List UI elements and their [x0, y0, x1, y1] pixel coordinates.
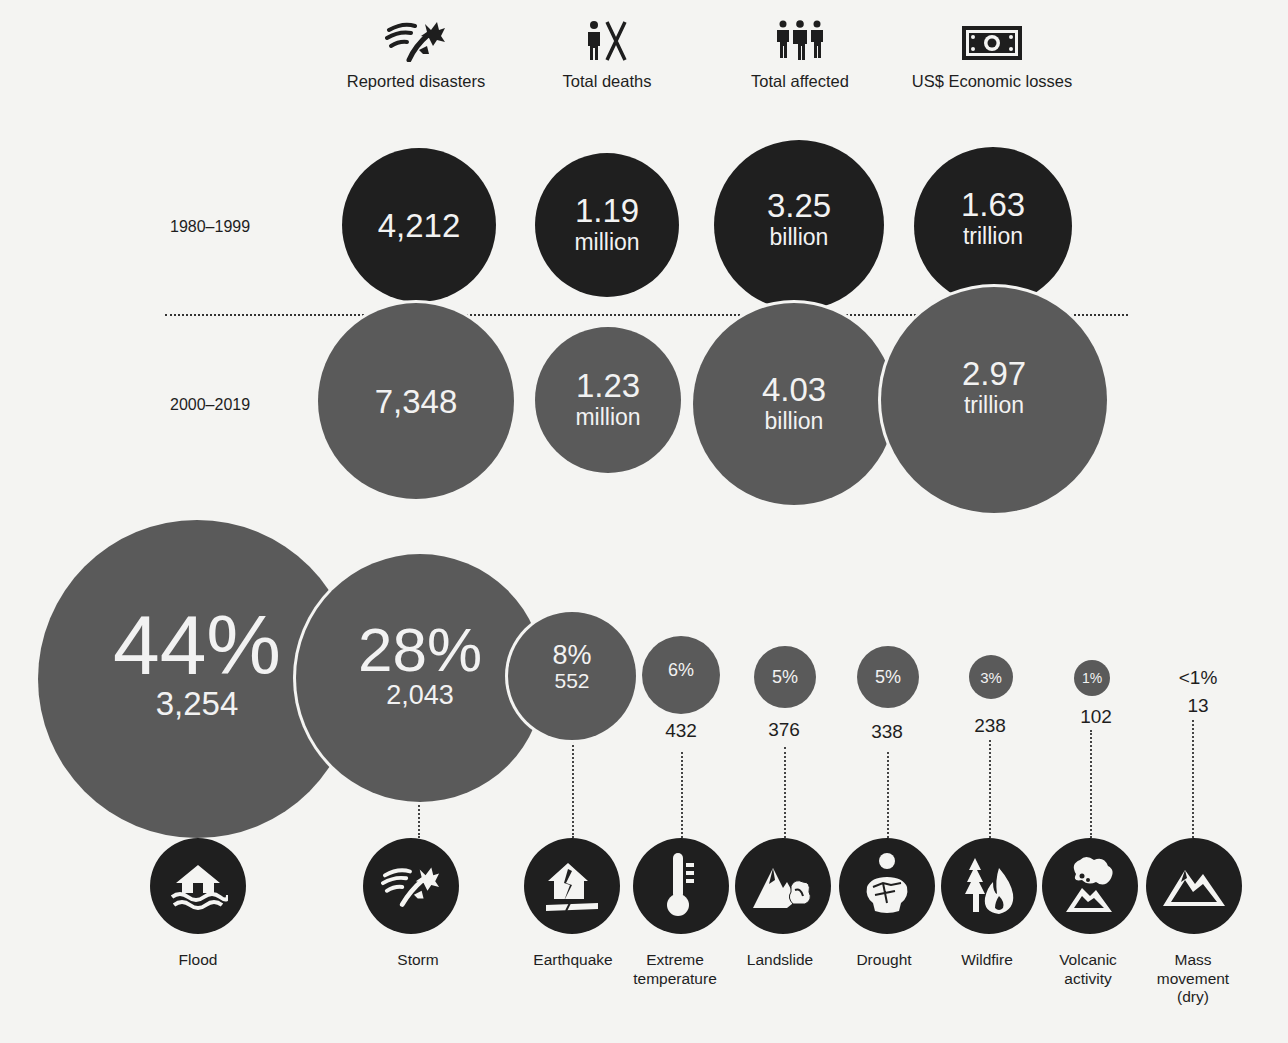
mass-movement-icon	[1146, 838, 1242, 934]
label-line: temperature	[615, 970, 735, 989]
label-line: movement	[1133, 970, 1253, 989]
landslide-icon	[735, 838, 831, 934]
label-line: Mass	[1133, 951, 1253, 970]
unit: billion	[765, 408, 824, 434]
connector-earthquake	[572, 730, 574, 838]
count-mass-movement: 13	[1168, 695, 1228, 717]
connector-drought	[887, 752, 889, 838]
earthquake-icon	[524, 838, 620, 934]
pct: 1%	[1082, 670, 1102, 686]
pct: 44%	[113, 606, 281, 686]
bubble-extreme-temp: 6%	[642, 636, 720, 714]
count: 552	[554, 669, 589, 693]
bubble-1980-affected: 3.25 billion	[714, 140, 884, 310]
value: 4,212	[378, 209, 461, 242]
type-label-extreme-temp: Extreme temperature	[615, 951, 735, 988]
pct: 5%	[772, 667, 798, 688]
header-total-deaths: Total deaths	[507, 0, 707, 91]
wildfire-icon	[941, 838, 1037, 934]
flood-icon	[150, 838, 246, 934]
bubble-storm: 28% 2,043	[296, 554, 544, 802]
thermometer-icon	[633, 838, 729, 934]
connector-extreme-temp	[681, 752, 683, 838]
period-label-2000-2019: 2000–2019	[170, 396, 250, 414]
label-line: activity	[1028, 970, 1148, 989]
label-line: Volcanic	[1028, 951, 1148, 970]
type-label-volcanic: Volcanic activity	[1028, 951, 1148, 988]
type-label-mass-movement: Mass movement (dry)	[1133, 951, 1253, 1007]
connector-wildfire	[989, 740, 991, 838]
bubble-drought: 5%	[857, 646, 919, 708]
value: 2.97	[962, 357, 1026, 390]
banknote-icon	[892, 22, 1092, 62]
pct: 28%	[358, 621, 482, 680]
count-extreme-temp: 432	[651, 720, 711, 742]
count-drought: 338	[857, 721, 917, 743]
type-label-flood: Flood	[138, 951, 258, 970]
type-label-drought: Drought	[824, 951, 944, 970]
header-total-affected: Total affected	[700, 0, 900, 91]
connector-landslide	[784, 747, 786, 838]
unit: trillion	[963, 223, 1023, 249]
value: 4.03	[762, 373, 826, 406]
count-volcanic: 102	[1066, 706, 1126, 728]
people-group-icon	[700, 22, 900, 62]
connector-volcanic	[1090, 730, 1092, 838]
count: 2,043	[386, 680, 454, 711]
bubble-wildfire: 3%	[969, 655, 1013, 699]
pct: 6%	[668, 660, 694, 681]
header-label: Total deaths	[507, 72, 707, 91]
value: 1.19	[575, 194, 639, 227]
connector-mass-movement	[1192, 720, 1194, 838]
header-label: Total affected	[700, 72, 900, 91]
header-reported-disasters: Reported disasters	[316, 0, 516, 91]
storm-icon	[363, 838, 459, 934]
label-line: Extreme	[615, 951, 735, 970]
pct-mass-movement: <1%	[1168, 667, 1228, 689]
unit: million	[574, 229, 639, 255]
bubble-1980-reported: 4,212	[342, 148, 496, 302]
unit: billion	[770, 224, 829, 250]
unit: trillion	[964, 392, 1024, 418]
bubble-volcanic: 1%	[1074, 660, 1110, 696]
pct: 3%	[980, 669, 1002, 686]
count: 3,254	[156, 686, 239, 722]
volcano-icon	[1042, 838, 1138, 934]
person-death-icon	[507, 22, 707, 62]
label-line: (dry)	[1133, 988, 1253, 1007]
bubble-2000-losses: 2.97 trillion	[881, 287, 1107, 513]
header-label: US$ Economic losses	[892, 72, 1092, 91]
value: 1.23	[576, 369, 640, 402]
value: 7,348	[375, 385, 458, 418]
drought-icon	[839, 838, 935, 934]
bubble-landslide: 5%	[754, 646, 816, 708]
pct: 5%	[875, 667, 901, 688]
pct: 8%	[552, 642, 591, 669]
value: 1.63	[961, 188, 1025, 221]
count-wildfire: 238	[960, 715, 1020, 737]
bubble-1980-losses: 1.63 trillion	[914, 147, 1072, 305]
storm-tree-icon	[316, 22, 516, 62]
count-landslide: 376	[754, 719, 814, 741]
type-label-storm: Storm	[358, 951, 478, 970]
bubble-earthquake: 8% 552	[508, 612, 636, 740]
bubble-2000-deaths: 1.23 million	[535, 327, 681, 473]
bubble-1980-deaths: 1.19 million	[535, 153, 679, 297]
type-label-landslide: Landslide	[720, 951, 840, 970]
unit: million	[575, 404, 640, 430]
value: 3.25	[767, 189, 831, 222]
header-economic-losses: US$ Economic losses	[892, 0, 1092, 91]
header-label: Reported disasters	[316, 72, 516, 91]
bubble-2000-reported: 7,348	[318, 303, 514, 499]
period-label-1980-1999: 1980–1999	[170, 218, 250, 236]
bubble-2000-affected: 4.03 billion	[693, 303, 895, 505]
